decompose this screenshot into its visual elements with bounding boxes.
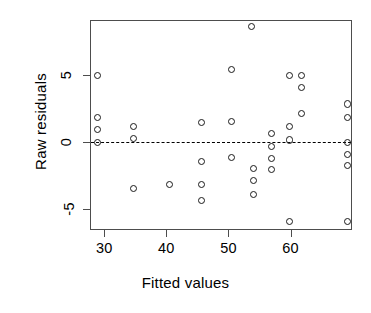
data-point xyxy=(298,110,305,117)
data-point xyxy=(94,72,101,79)
x-tick-mark xyxy=(166,230,167,237)
data-point xyxy=(344,151,351,158)
data-point xyxy=(268,143,275,150)
y-tick-label: 0 xyxy=(58,138,74,146)
data-point xyxy=(286,72,293,79)
x-tick-label: 60 xyxy=(282,240,299,256)
data-point xyxy=(250,191,257,198)
data-point xyxy=(268,130,275,137)
data-point xyxy=(198,158,205,165)
y-tick-mark xyxy=(83,75,90,76)
data-point xyxy=(286,136,293,143)
data-point xyxy=(248,23,255,30)
zero-reference-line xyxy=(91,142,351,143)
data-point xyxy=(268,166,275,173)
data-point xyxy=(198,181,205,188)
data-point xyxy=(344,100,351,107)
data-point xyxy=(198,197,205,204)
y-tick-label: 5 xyxy=(58,71,74,79)
data-point xyxy=(286,123,293,130)
data-point xyxy=(268,155,275,162)
x-tick-mark xyxy=(228,230,229,237)
data-point xyxy=(130,123,137,130)
x-tick-mark xyxy=(104,230,105,237)
data-point xyxy=(344,162,351,169)
data-point xyxy=(344,218,351,225)
data-point xyxy=(94,139,101,146)
x-axis-title: Fitted values xyxy=(0,274,371,291)
data-point xyxy=(298,84,305,91)
x-tick-mark xyxy=(291,230,292,237)
data-point xyxy=(228,154,235,161)
x-tick-label: 50 xyxy=(220,240,237,256)
data-point xyxy=(94,114,101,121)
data-point xyxy=(250,165,257,172)
data-point xyxy=(250,177,257,184)
data-point xyxy=(344,139,351,146)
y-tick-label: -5 xyxy=(61,202,77,215)
residual-plot: Raw residuals 50-5 30405060 Fitted value… xyxy=(0,0,371,313)
data-point xyxy=(198,119,205,126)
plot-panel xyxy=(90,20,352,230)
data-point xyxy=(298,72,305,79)
data-point xyxy=(286,218,293,225)
data-point xyxy=(166,181,173,188)
y-tick-mark xyxy=(83,209,90,210)
data-point xyxy=(228,66,235,73)
y-axis-title: Raw residuals xyxy=(32,17,49,227)
data-point xyxy=(228,118,235,125)
y-tick-mark xyxy=(83,142,90,143)
data-point xyxy=(130,185,137,192)
data-point xyxy=(344,114,351,121)
x-tick-label: 30 xyxy=(96,240,113,256)
data-point xyxy=(94,126,101,133)
x-tick-label: 40 xyxy=(158,240,175,256)
